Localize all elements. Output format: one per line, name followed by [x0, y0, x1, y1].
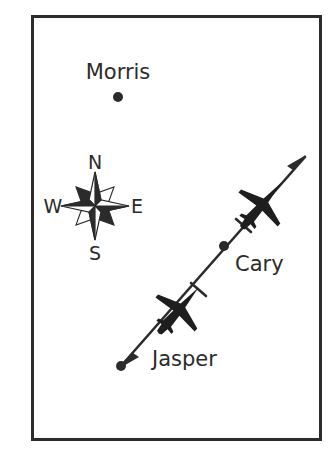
compass-label-south: S [89, 242, 101, 264]
map-figure: Morris Cary Jasper N W E S [0, 0, 330, 457]
compass-label-east: E [131, 195, 143, 217]
compass-rose: N W E S [44, 151, 143, 264]
compass-label-north: N [88, 151, 102, 173]
aircraft-upper [222, 165, 301, 245]
map-border [33, 17, 321, 440]
compass-star-icon [61, 172, 129, 240]
place-label-jasper: Jasper [150, 347, 217, 371]
place-marker-jasper[interactable] [116, 361, 126, 371]
compass-label-west: W [44, 195, 63, 217]
place-marker-cary[interactable] [219, 241, 229, 251]
aircraft-lower [139, 270, 218, 350]
place-marker-morris[interactable] [113, 92, 123, 102]
place-label-morris: Morris [86, 60, 151, 84]
map-canvas: Morris Cary Jasper N W E S [0, 0, 330, 457]
place-label-cary: Cary [235, 252, 284, 276]
